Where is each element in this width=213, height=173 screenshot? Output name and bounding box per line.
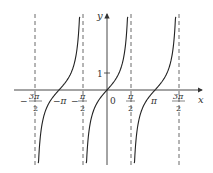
- x-tick-label-pi-2: π 2: [126, 92, 135, 113]
- svg-text:π: π: [79, 92, 86, 101]
- svg-text:2: 2: [80, 104, 85, 113]
- origin-label: 0: [110, 96, 116, 106]
- x-tick-label-neg-3pi-2: − 3π 2: [20, 92, 42, 113]
- svg-text:3π: 3π: [173, 92, 184, 101]
- x-tick-label-3pi-2: 3π 2: [172, 92, 185, 113]
- svg-text:2: 2: [176, 104, 181, 113]
- tangent-graph: y x 0 1 − 3π 2 −π − π 2 π 2 π 3π: [0, 0, 213, 173]
- x-tick-label-neg-pi: −π: [53, 96, 68, 106]
- svg-text:−: −: [71, 96, 79, 106]
- svg-text:π: π: [127, 92, 134, 101]
- svg-text:−: −: [20, 96, 28, 106]
- x-axis-label: x: [198, 94, 204, 105]
- chart-svg: y x 0 1 − 3π 2 −π − π 2 π 2 π 3π: [0, 0, 213, 173]
- y-axis-label: y: [96, 10, 103, 21]
- y-tick-label-1: 1: [97, 69, 103, 79]
- x-tick-label-neg-pi-2: − π 2: [71, 92, 87, 113]
- svg-text:2: 2: [128, 104, 133, 113]
- svg-text:3π: 3π: [29, 92, 40, 101]
- svg-text:2: 2: [33, 104, 38, 113]
- x-tick-label-pi: π: [150, 96, 158, 106]
